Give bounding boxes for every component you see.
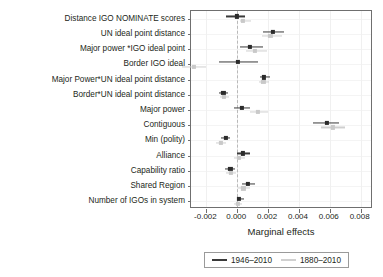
grid-line-vertical (361, 11, 362, 207)
estimate-marker (192, 64, 196, 68)
estimate-marker (253, 49, 257, 53)
grid-line-vertical (330, 11, 331, 207)
grid-line-horizontal (191, 19, 371, 20)
estimate-marker (271, 30, 275, 34)
grid-line-vertical (299, 11, 300, 207)
estimate-marker (241, 19, 245, 23)
y-axis-tick (188, 80, 192, 81)
legend-label: 1946–2010 (231, 256, 272, 265)
estimate-marker (222, 95, 226, 99)
grid-line-horizontal (191, 186, 371, 187)
estimate-marker (224, 136, 228, 140)
grid-line-vertical (206, 11, 207, 207)
estimate-marker (241, 186, 245, 190)
y-axis-tick (188, 186, 192, 187)
y-axis-tick (188, 125, 192, 126)
y-axis-tick (188, 171, 192, 172)
grid-line-vertical (268, 11, 269, 207)
y-axis-category-label: Border IGO ideal (0, 59, 185, 68)
y-axis-category-label: Contiguous (0, 120, 185, 129)
y-axis-category-label: Capability ratio (0, 165, 185, 174)
estimate-marker (248, 45, 252, 49)
y-axis-category-label: Number of IGOs in system (0, 196, 185, 205)
estimate-marker (237, 197, 241, 201)
estimate-marker (241, 151, 245, 155)
x-axis-label: Marginal effects (190, 226, 372, 237)
x-axis-tick-label: 0.008 (350, 212, 370, 221)
estimate-marker (262, 75, 266, 79)
legend-item: 1880–2010 (281, 256, 341, 265)
estimate-marker (236, 60, 240, 64)
estimate-marker (237, 156, 241, 160)
legend-line-icon (281, 259, 296, 260)
y-axis-tick (188, 19, 192, 20)
coefficient-plot-figure: Distance IGO NOMINATE scoresUN ideal poi… (0, 0, 383, 277)
y-axis-tick (188, 95, 192, 96)
chart-legend: 1946–20101880–2010 (204, 252, 349, 268)
y-axis-tick (188, 49, 192, 50)
x-axis-tick-label: 0.000 (226, 212, 246, 221)
grid-line-horizontal (191, 171, 371, 172)
y-axis-category-label: UN ideal point distance (0, 28, 185, 37)
grid-line-horizontal (191, 110, 371, 111)
x-axis-tick-label: 0.006 (319, 212, 339, 221)
estimate-marker (240, 106, 244, 110)
x-axis-tick-labels: -0.0020.0000.0020.0040.0060.008 (190, 212, 372, 224)
grid-line-horizontal (191, 49, 371, 50)
y-axis-category-label: Major power (0, 105, 185, 114)
y-axis-category-label: Border*UN ideal point distance (0, 89, 185, 98)
y-axis-tick (188, 156, 192, 157)
y-axis-tick (188, 34, 192, 35)
y-axis-tick (188, 110, 192, 111)
zero-reference-line (237, 11, 238, 207)
grid-line-horizontal (191, 201, 371, 202)
plot-area (190, 10, 372, 208)
legend-label: 1880–2010 (300, 256, 341, 265)
legend-item: 1946–2010 (212, 256, 272, 265)
estimate-marker (261, 80, 265, 84)
estimate-marker (331, 125, 335, 129)
estimate-marker (246, 182, 250, 186)
estimate-marker (256, 110, 260, 114)
x-axis-tick-label: 0.004 (288, 212, 308, 221)
estimate-marker (229, 171, 233, 175)
y-axis-category-label: Major Power*UN ideal point distance (0, 74, 185, 83)
estimate-marker (325, 121, 329, 125)
estimate-marker (268, 34, 272, 38)
grid-line-horizontal (191, 156, 371, 157)
y-axis-category-label: Major power *IGO ideal point (0, 44, 185, 53)
estimate-marker (221, 90, 225, 94)
y-axis-category-labels: Distance IGO NOMINATE scoresUN ideal poi… (0, 10, 185, 208)
estimate-marker (228, 167, 232, 171)
estimate-marker (235, 14, 239, 18)
y-axis-category-label: Alliance (0, 150, 185, 159)
y-axis-category-label: Min (polity) (0, 135, 185, 144)
x-axis-tick-label: -0.002 (194, 212, 217, 221)
y-axis-category-label: Shared Region (0, 181, 185, 190)
estimate-marker (236, 201, 240, 205)
estimate-marker (219, 141, 223, 145)
legend-line-icon (212, 259, 227, 260)
y-axis-category-label: Distance IGO NOMINATE scores (0, 13, 185, 22)
grid-line-horizontal (191, 80, 371, 81)
y-axis-tick (188, 140, 192, 141)
x-axis-tick-label: 0.002 (257, 212, 277, 221)
grid-line-horizontal (191, 95, 371, 96)
grid-line-horizontal (191, 64, 371, 65)
y-axis-tick (188, 201, 192, 202)
